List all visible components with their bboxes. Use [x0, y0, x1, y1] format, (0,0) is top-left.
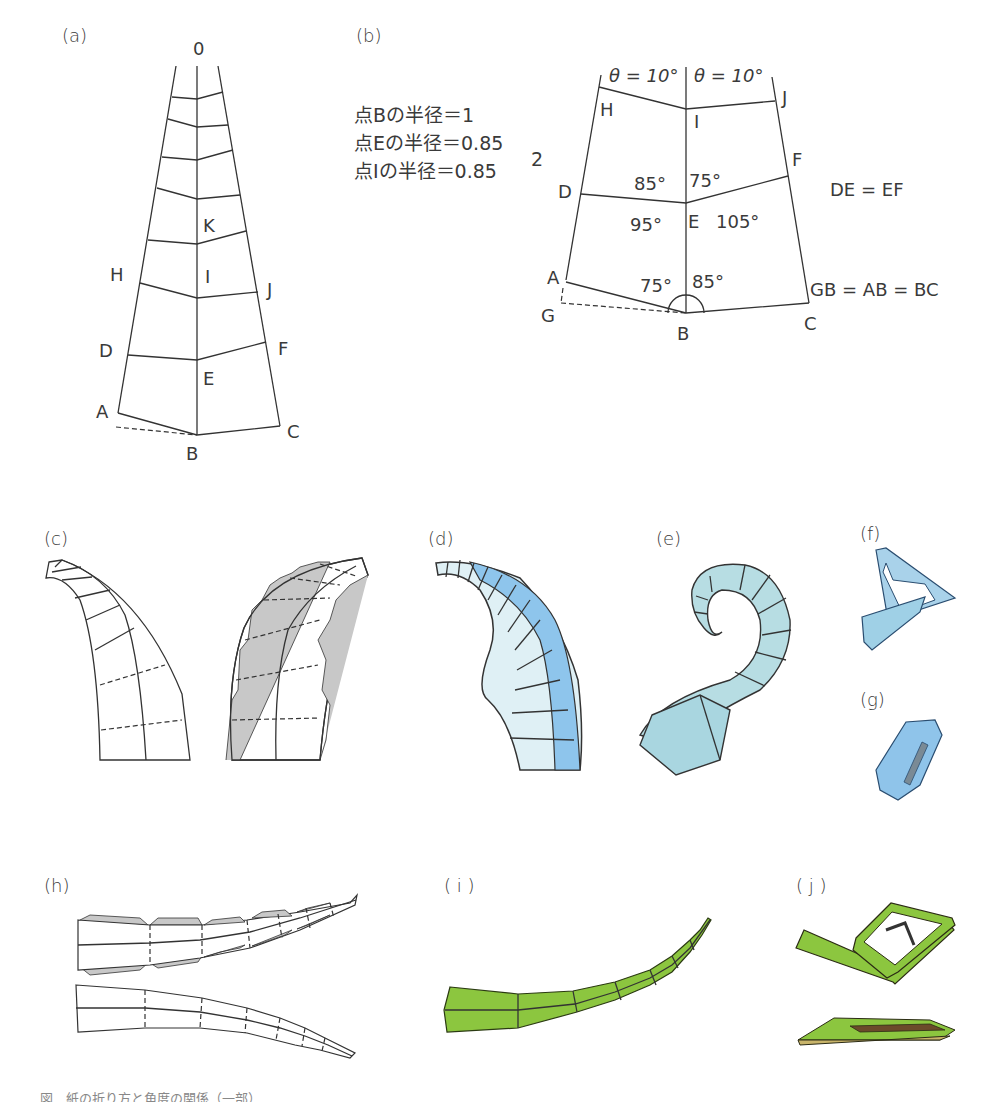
panel-a: (a) 0 K H I J D F E A C B: [62, 25, 300, 464]
panel-f: (f): [860, 523, 955, 650]
angle-95: 95°: [630, 214, 662, 235]
theta-right: θ = 10°: [694, 65, 763, 86]
point-d-b: D: [558, 181, 572, 202]
panel-e: (e): [640, 528, 791, 775]
panel-h: (h): [44, 875, 357, 1058]
angle-85-bottom: 85°: [692, 271, 724, 292]
point-j-b: J: [781, 87, 787, 108]
point-e-b: E: [688, 211, 699, 232]
point-c: C: [287, 421, 300, 442]
panel-g-label: (g): [860, 689, 885, 710]
panel-b-label: (b): [356, 25, 381, 46]
panel-c: (c): [44, 528, 368, 760]
point-b-b: B: [677, 323, 689, 344]
figure-caption: 図 紙の折り方と角度の関係（一部）: [40, 1088, 261, 1102]
note-radius-i: 点Iの半径＝0.85: [354, 160, 497, 182]
figure-canvas: (a) 0 K H I J D F E A C B (b) 点Bの半径＝1 点E…: [0, 0, 996, 1102]
note-radius-b: 点Bの半径＝1: [354, 104, 474, 126]
panel-j-label: ( j ): [796, 875, 827, 896]
panel-f-label: (f): [860, 523, 880, 544]
panel-a-label: (a): [62, 25, 87, 46]
panel-d-label: (d): [428, 528, 453, 549]
angle-75-bottom: 75°: [640, 275, 672, 296]
panel-i: ( i ): [444, 875, 711, 1032]
point-b: B: [186, 443, 198, 464]
point-f-b: F: [792, 149, 802, 170]
point-h-b: H: [600, 99, 614, 120]
note-radius-e: 点Eの半径＝0.85: [354, 132, 503, 154]
point-i: I: [205, 266, 210, 287]
panel-e-label: (e): [656, 528, 681, 549]
point-g-b: G: [541, 305, 555, 326]
panel-j: ( j ): [796, 875, 955, 1045]
point-i-b: I: [694, 111, 699, 132]
point-d: D: [99, 340, 113, 361]
angle-105: 105°: [716, 211, 759, 232]
panel-b: (b) 点Bの半径＝1 点Eの半径＝0.85 点Iの半径＝0.85 2 θ = …: [354, 25, 939, 344]
angle-75-top: 75°: [689, 170, 721, 191]
panel-d: (d): [428, 528, 582, 770]
panel-c-label: (c): [44, 528, 68, 549]
point-a-b: A: [547, 267, 560, 288]
point-c-b: C: [804, 313, 817, 334]
point-j: J: [266, 279, 272, 300]
point-e: E: [203, 368, 214, 389]
point-f: F: [278, 338, 288, 359]
equality-de-ef: DE = EF: [830, 179, 904, 200]
note-superscript: 2: [531, 148, 543, 170]
panel-h-label: (h): [44, 875, 69, 896]
point-k: K: [203, 215, 216, 236]
angle-85-top: 85°: [634, 173, 666, 194]
equality-gb-ab-bc: GB = AB = BC: [810, 279, 939, 300]
panel-g: (g): [860, 689, 942, 800]
theta-left: θ = 10°: [609, 65, 678, 86]
point-a: A: [96, 401, 109, 422]
point-h: H: [110, 264, 124, 285]
panel-i-label: ( i ): [444, 875, 475, 896]
apex-label-0: 0: [193, 38, 204, 59]
